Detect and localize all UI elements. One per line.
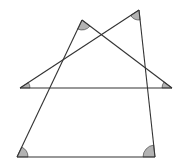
geometry-diagram: [0, 0, 183, 166]
segment-B-F: [139, 10, 155, 157]
angle-mark-F: [143, 145, 155, 157]
angle-marks: [17, 10, 172, 157]
segment-A-D: [82, 20, 172, 88]
segments: [17, 10, 172, 157]
angle-mark-E: [17, 147, 28, 157]
